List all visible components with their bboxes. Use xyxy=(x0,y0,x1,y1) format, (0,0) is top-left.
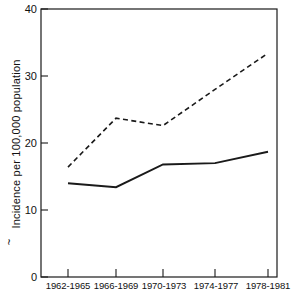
x-tick-label-1966-1969: 1966-1969 xyxy=(94,281,139,291)
x-tick-label-1962-1965: 1962-1965 xyxy=(46,281,91,291)
x-tick-label-1974-1977: 1974-1977 xyxy=(194,281,239,291)
y-tick-marks xyxy=(41,9,48,277)
series-line-solid xyxy=(68,152,268,188)
chart-figure: Incidence per 100,000 population ~ 40 30… xyxy=(0,0,295,306)
x-tick-label-1970-1973: 1970-1973 xyxy=(142,281,187,291)
x-tick-label-1978-1981: 1978-1981 xyxy=(246,281,291,291)
x-tick-marks xyxy=(68,269,268,277)
axis-frame xyxy=(41,9,277,277)
x-tick-label-group: 1962-1965 1966-1969 1970-1973 1974-1977 … xyxy=(0,281,295,297)
series-line-dashed xyxy=(68,53,268,167)
plot-area xyxy=(0,0,295,306)
